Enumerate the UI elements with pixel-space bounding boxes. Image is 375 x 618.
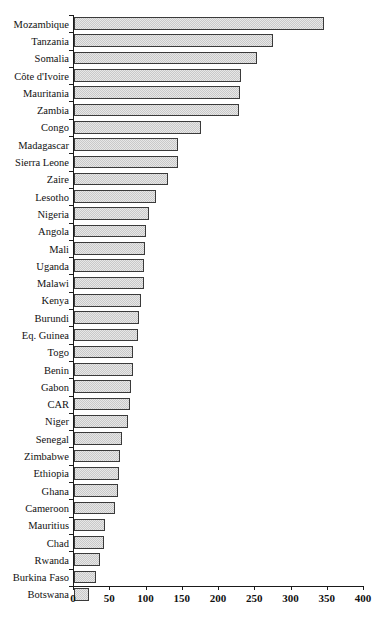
category-label: Mauritius [28,520,69,531]
category-tick-mark [69,569,73,570]
bar-row: Chad [0,534,375,551]
bar [74,294,141,307]
bar-container [74,432,122,445]
category-tick-mark [69,534,73,535]
x-tick-mark [218,586,219,590]
bar-container [74,294,141,307]
category-tick-mark [69,517,73,518]
bar [74,225,146,238]
category-tick-mark [69,551,73,552]
category-label: Rwanda [35,554,69,565]
category-tick-mark [69,482,73,483]
bar-row: Benin [0,361,375,378]
category-label: Zaire [47,174,69,185]
x-tick-mark [254,586,255,590]
category-label: Nigeria [38,208,70,219]
bar-rows: MozambiqueTanzaniaSomaliaCôte d'IvoireMa… [0,15,375,586]
category-tick-mark [69,257,73,258]
bar-row: Mali [0,240,375,257]
x-tick-label: 0 [70,592,76,605]
bar [74,121,201,134]
x-tick-mark [109,586,110,590]
bar-row: Eq. Guinea [0,326,375,343]
bar-row: Rwanda [0,551,375,568]
bar-row: Burundi [0,309,375,326]
category-tick-mark [69,153,73,154]
bar [74,173,168,186]
bar [74,69,241,82]
bar-row: Togo [0,344,375,361]
bar-container [74,311,139,324]
category-label: Angola [38,226,69,237]
category-label: Uganda [36,260,69,271]
category-tick-mark [69,188,73,189]
bar [74,398,130,411]
bar-container [74,277,144,290]
bar-row: Madagascar [0,136,375,153]
bar [74,432,122,445]
category-tick-mark [69,396,73,397]
category-tick-mark [69,136,73,137]
category-label: Zimbabwe [24,451,69,462]
bar [74,467,119,480]
bar-row: Angola [0,223,375,240]
bar-container [74,450,120,463]
bar-container [74,467,119,480]
bar [74,346,133,359]
bar [74,86,240,99]
bar-container [74,121,201,134]
bar-container [74,536,104,549]
category-label: Benin [44,364,69,375]
category-label: Niger [45,416,69,427]
bar [74,553,100,566]
category-label: Senegal [36,433,69,444]
category-label: Cameroon [25,502,69,513]
bar-container [74,553,100,566]
category-tick-mark [69,205,73,206]
bar-container [74,380,131,393]
bar [74,311,139,324]
x-tick-mark [363,586,364,590]
x-tick-mark [146,586,147,590]
bar-row: Niger [0,413,375,430]
category-label: CAR [47,399,69,410]
bar [74,190,156,203]
category-tick-mark [69,240,73,241]
bar-row: Nigeria [0,205,375,222]
bar [74,484,118,497]
category-label: Mauritania [23,87,69,98]
bar [74,380,131,393]
bar [74,363,133,376]
category-tick-mark [69,465,73,466]
category-tick-mark [69,309,73,310]
bar [74,259,144,272]
bar-row: Lesotho [0,188,375,205]
bar-container [74,398,130,411]
bar [74,329,138,342]
bar [74,536,104,549]
bar-row: CAR [0,396,375,413]
category-tick-mark [69,292,73,293]
bar-container [74,156,178,169]
bar-row: Ghana [0,482,375,499]
category-label: Malawi [37,278,69,289]
category-tick-mark [69,378,73,379]
category-label: Ethiopia [33,468,69,479]
bar-row: Mozambique [0,15,375,32]
x-tick-label: 400 [355,592,372,605]
bar-container [74,207,149,220]
bar [74,277,144,290]
bar [74,52,257,65]
bar [74,502,115,515]
category-label: Lesotho [35,191,69,202]
category-label: Zambia [37,105,69,116]
x-tick-label: 200 [210,592,227,605]
bar-container [74,259,144,272]
category-label: Ghana [42,485,69,496]
bar [74,415,128,428]
bar [74,104,239,117]
x-tick-label: 100 [137,592,154,605]
category-label: Mozambique [14,18,69,29]
category-tick-mark [69,84,73,85]
bar-container [74,571,96,584]
